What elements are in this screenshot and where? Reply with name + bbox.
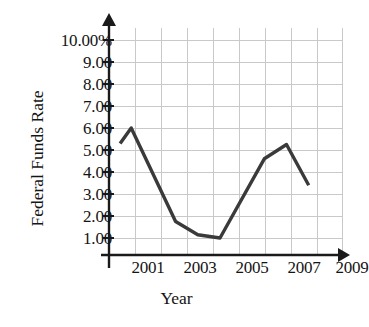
y-tick-label-9: 9.00 xyxy=(83,54,112,71)
x-tick-label-2007: 2007 xyxy=(287,259,320,276)
y-tick-label-3: 3.00 xyxy=(83,186,112,203)
y-axis-title: Federal Funds Rate xyxy=(27,54,48,264)
x-axis-title: Year xyxy=(0,288,353,309)
x-tick-label-2005: 2005 xyxy=(235,259,268,276)
grid-lines-horizontal xyxy=(109,40,342,238)
x-tick-label-2009: 2009 xyxy=(335,259,368,276)
y-axis-arrowhead xyxy=(102,13,116,26)
y-tick-label-4: 4.00 xyxy=(83,164,112,181)
federal-funds-rate-line xyxy=(120,128,309,238)
y-tick-label-1: 1.00 xyxy=(83,230,112,247)
x-tick-label-2001: 2001 xyxy=(131,259,164,276)
y-tick-label-2: 2.00 xyxy=(83,208,112,225)
y-tick-label-8: 8.00 xyxy=(83,76,112,93)
y-tick-label-7: 7.00 xyxy=(83,98,112,115)
y-tick-label-10: 10.00% xyxy=(61,32,112,49)
y-tick-label-5: 5.00 xyxy=(83,142,112,159)
y-tick-label-6: 6.00 xyxy=(83,120,112,137)
x-tick-label-2003: 2003 xyxy=(183,259,216,276)
